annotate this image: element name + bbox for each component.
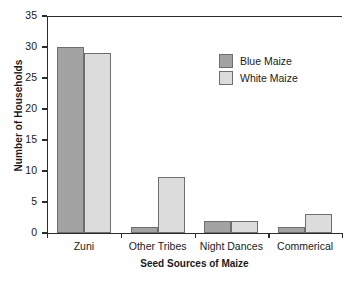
bar [131, 227, 158, 233]
y-axis-tick-label: 10 [25, 164, 37, 176]
y-axis-tick-label: 5 [31, 195, 37, 207]
x-axis-tick-mark [195, 233, 196, 238]
bar [278, 227, 305, 233]
x-axis-title: Seed Sources of Maize [47, 258, 342, 269]
y-axis-tick-label: 30 [25, 40, 37, 52]
bar [57, 47, 84, 233]
legend-label: Blue Maize [240, 55, 292, 67]
y-axis-tick-mark [42, 201, 47, 202]
y-axis-tick-mark [42, 139, 47, 140]
x-axis-tick-mark [47, 233, 48, 238]
x-axis-tick-mark [121, 233, 122, 238]
x-axis-category-label: Zuni [47, 240, 121, 252]
bar [305, 214, 332, 233]
legend-item: White Maize [219, 69, 298, 86]
y-axis-tick-mark [42, 46, 47, 47]
bar [204, 221, 231, 233]
y-axis-tick-label: 35 [25, 9, 37, 21]
y-axis-tick-label: 20 [25, 102, 37, 114]
legend-label: White Maize [240, 72, 298, 84]
y-axis-title: Number of Households [13, 36, 24, 196]
y-axis-tick-mark [42, 77, 47, 78]
bar [84, 53, 111, 233]
bar [231, 221, 258, 233]
y-axis-tick-label: 25 [25, 71, 37, 83]
chart-legend: Blue MaizeWhite Maize [219, 52, 298, 86]
y-axis-tick-mark [42, 15, 47, 16]
y-axis-tick-mark [42, 170, 47, 171]
bar [158, 177, 185, 233]
legend-swatch [219, 54, 233, 68]
x-axis-tick-mark [268, 233, 269, 238]
x-axis-tick-mark [342, 233, 343, 238]
legend-item: Blue Maize [219, 52, 298, 69]
bar-chart-figure: Number of Households 05101520253035 Zuni… [0, 0, 353, 283]
y-axis-tick-mark [42, 108, 47, 109]
x-axis-category-label: Commerical [268, 240, 342, 252]
x-axis-category-label: Night Dances [195, 240, 269, 252]
x-axis-category-label: Other Tribes [121, 240, 195, 252]
legend-swatch [219, 71, 233, 85]
y-axis-tick-label: 15 [25, 133, 37, 145]
y-axis-tick-label: 0 [31, 226, 37, 238]
